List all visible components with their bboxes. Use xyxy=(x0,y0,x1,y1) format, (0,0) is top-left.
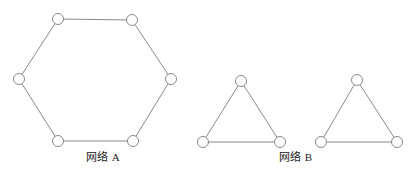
edge-a6-a1 xyxy=(19,19,58,79)
network-a-graph xyxy=(14,14,177,147)
edge-a1-a2 xyxy=(58,19,132,20)
node-b5 xyxy=(316,137,327,148)
network-b-triangle-right xyxy=(316,75,403,148)
network-b-graph xyxy=(198,75,403,148)
edge-b6-b4 xyxy=(357,80,397,142)
node-b2 xyxy=(198,137,209,148)
network-b-caption: 网络 B xyxy=(279,151,312,164)
node-a3 xyxy=(166,74,177,85)
node-a6 xyxy=(14,74,25,85)
edge-b4-b5 xyxy=(321,80,357,142)
edge-a2-a3 xyxy=(132,20,171,79)
network-a-caption: 网络 A xyxy=(86,151,120,164)
network-diagram-figure: 网络 A 网络 B xyxy=(0,0,414,175)
network-a-edges xyxy=(19,19,171,141)
edge-a5-a6 xyxy=(19,79,58,141)
node-a1 xyxy=(53,14,64,25)
edge-b3-b1 xyxy=(241,81,280,142)
network-a-nodes xyxy=(14,14,177,147)
node-b4 xyxy=(352,75,363,86)
edge-a3-a4 xyxy=(133,79,171,141)
node-a4 xyxy=(128,136,139,147)
node-a5 xyxy=(53,136,64,147)
node-b1 xyxy=(236,76,247,87)
diagram-canvas xyxy=(0,0,414,175)
node-b6 xyxy=(392,137,403,148)
edge-b1-b2 xyxy=(203,81,241,142)
node-a2 xyxy=(127,15,138,26)
node-b3 xyxy=(275,137,286,148)
network-b-triangle-left xyxy=(198,76,286,148)
